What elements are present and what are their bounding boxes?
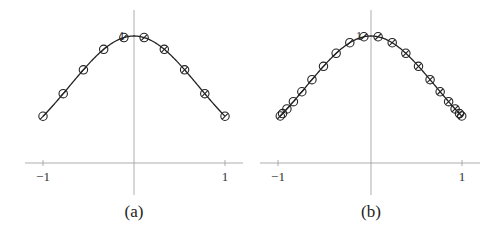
y-tick-label-1: 1 bbox=[356, 29, 362, 43]
panel-caption: (a) bbox=[125, 202, 144, 221]
node-marker-slash bbox=[60, 91, 66, 97]
node-marker-slash bbox=[309, 77, 315, 83]
node-marker-slash bbox=[40, 113, 46, 119]
panel-a: −111(a) bbox=[25, 10, 243, 221]
x-tick-label-neg1: −1 bbox=[271, 169, 285, 184]
node-marker-slash bbox=[320, 63, 326, 69]
node-marker-slash bbox=[284, 106, 290, 112]
node-marker-slash bbox=[80, 67, 86, 73]
node-marker-slash bbox=[299, 89, 305, 95]
figure: −111(a) −111(b) bbox=[0, 0, 503, 228]
node-marker-slash bbox=[101, 46, 107, 52]
panel-caption: (b) bbox=[361, 202, 381, 221]
x-tick-label-1: 1 bbox=[459, 169, 466, 184]
node-marker-slash bbox=[347, 40, 353, 46]
panel-b: −111(b) bbox=[260, 10, 480, 221]
x-tick-label-1: 1 bbox=[222, 169, 229, 184]
x-tick-label-neg1: −1 bbox=[36, 169, 50, 184]
node-marker-slash bbox=[290, 99, 296, 105]
node-marker-slash bbox=[333, 50, 339, 56]
